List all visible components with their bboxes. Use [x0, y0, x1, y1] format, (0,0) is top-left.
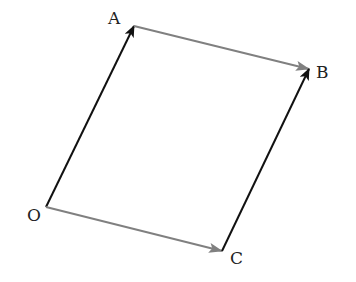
label-C: C: [230, 248, 243, 268]
vector-CB: [222, 69, 309, 251]
vector-OA: [46, 26, 134, 207]
label-O: O: [27, 205, 41, 225]
vector-AB: [134, 26, 309, 69]
label-B: B: [316, 62, 329, 82]
vector-diagram: A B O C: [0, 0, 356, 282]
vector-OC: [46, 207, 222, 251]
label-A: A: [107, 8, 121, 28]
